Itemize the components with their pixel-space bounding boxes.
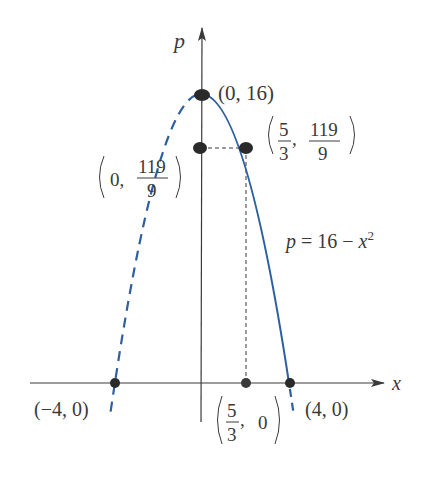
svg-text:p = 16 − x2: p = 16 − x2 xyxy=(284,228,374,253)
point-neg4-0 xyxy=(110,378,120,388)
label-neg4-0: (−4, 0) xyxy=(34,398,89,421)
curve-left-dashed xyxy=(111,94,201,412)
svg-text:9: 9 xyxy=(147,180,157,201)
label-4-0: (4, 0) xyxy=(305,398,348,421)
point-5-3-119-9 xyxy=(239,142,253,154)
svg-text:119: 119 xyxy=(138,156,166,177)
svg-text:,: , xyxy=(240,409,245,430)
point-0-119-9 xyxy=(193,142,207,154)
svg-text:9: 9 xyxy=(318,143,328,164)
label-0-119-9: 0, 119 9 xyxy=(100,156,181,201)
label-5-3-0: 5 3 , 0 xyxy=(218,396,280,445)
axis-label-x: x xyxy=(391,372,401,394)
point-vertex xyxy=(194,89,210,101)
axis-label-p: p xyxy=(172,28,185,53)
svg-text:119: 119 xyxy=(310,119,338,140)
point-5-3-0 xyxy=(241,378,251,388)
svg-text:3: 3 xyxy=(279,143,289,164)
svg-text:,: , xyxy=(292,128,297,149)
parabola-diagram: p x (0, 16) 5 3 , 119 9 0, 119 9 p = 16 … xyxy=(0,0,427,481)
svg-text:5: 5 xyxy=(279,119,289,140)
equation-label: p = 16 − x2 xyxy=(284,228,374,253)
svg-text:0: 0 xyxy=(258,412,268,433)
label-vertex: (0, 16) xyxy=(218,81,274,105)
curve-right-solid xyxy=(201,94,289,383)
point-4-0 xyxy=(285,378,295,388)
label-5-3-119-9: 5 3 , 119 9 xyxy=(269,116,355,164)
svg-text:5: 5 xyxy=(227,400,237,421)
svg-text:0,: 0, xyxy=(110,169,124,190)
svg-text:3: 3 xyxy=(227,424,237,445)
p-axis xyxy=(201,28,202,422)
